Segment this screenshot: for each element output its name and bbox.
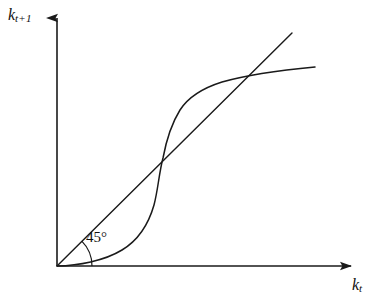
angle-label: 45° <box>86 230 107 245</box>
phase-diagram-figure: kt+1 kt 45° <box>0 0 382 307</box>
y-axis-label: kt+1 <box>8 7 32 24</box>
x-axis-label-subscript: t <box>359 282 362 294</box>
x-axis-label: kt <box>352 277 362 294</box>
y-axis-label-subscript: t+1 <box>15 12 32 24</box>
diagram-canvas <box>0 0 382 307</box>
